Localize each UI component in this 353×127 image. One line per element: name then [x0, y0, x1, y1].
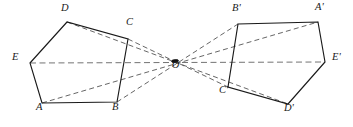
vertex-label-B: B	[112, 102, 118, 113]
vertex-label-D: D	[61, 3, 69, 14]
vertex-label-C-prime: C'	[219, 85, 228, 96]
vertex-label-B-prime: B'	[232, 3, 241, 14]
vertex-label-E: E	[12, 52, 18, 63]
center-label-O: O	[172, 60, 179, 70]
pentagon-right-ApBpCpDpEp	[228, 22, 325, 104]
vertex-label-C: C	[126, 17, 133, 28]
vertex-label-D-prime: D'	[284, 103, 294, 114]
vertex-label-E-prime: E'	[332, 52, 341, 63]
vertex-label-A-prime: A'	[315, 2, 324, 13]
geometry-figure: A B C D E O A' B' C' D' E'	[0, 0, 353, 127]
vertex-label-A: A	[36, 102, 42, 113]
